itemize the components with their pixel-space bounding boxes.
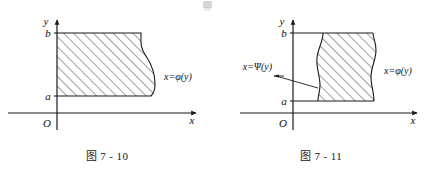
tick-label-b: b — [45, 27, 51, 39]
figure-7-11-graphic: y x O b a x=Ψ(y) x=φ(y) — [214, 0, 428, 150]
x-axis-label: x — [189, 114, 195, 126]
figure-7-10-graphic: y x O b a x=φ(y) — [0, 0, 214, 150]
figure-caption: 图 7 - 10 — [0, 147, 214, 163]
leader-line-psi — [276, 76, 318, 88]
y-axis-label: y — [43, 15, 49, 27]
region-hatched-fill — [317, 33, 376, 101]
region-hatched-fill — [57, 33, 155, 96]
figure-7-10: y x O b a x=φ(y) 图 7 - 10 — [0, 0, 214, 178]
figure-caption: 图 7 - 11 — [214, 147, 428, 163]
x-axis-label: x — [410, 114, 416, 126]
origin-label: O — [43, 117, 51, 129]
origin-label: O — [279, 117, 287, 129]
tick-label-b: b — [281, 27, 287, 39]
curve-label-psi: x=Ψ(y) — [242, 61, 273, 73]
figure-page: y x O b a x=φ(y) 图 7 - 10 — [0, 0, 428, 178]
figure-7-11: y x O b a x=Ψ(y) x=φ(y) 图 7 - 11 — [214, 0, 428, 178]
curve-label-phi: x=φ(y) — [163, 71, 192, 83]
tick-label-a: a — [45, 90, 51, 102]
tick-label-a: a — [281, 95, 287, 107]
y-axis-label: y — [279, 15, 285, 27]
curve-label-phi: x=φ(y) — [383, 65, 412, 77]
